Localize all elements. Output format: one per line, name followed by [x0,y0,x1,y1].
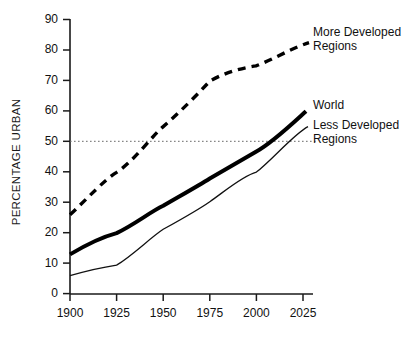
series-label-less-developed-regions: Less Developed Regions [313,119,399,146]
x-tick-label-1950: 1950 [140,307,186,319]
y-tick-label-50: 50 [32,135,58,147]
series-label-more-developed-regions: More Developed Regions [313,26,401,53]
x-tick-label-2000: 2000 [233,307,279,319]
x-axis-ticks [70,294,303,301]
y-tick-label-60: 60 [32,104,58,116]
y-tick-label-20: 20 [32,226,58,238]
series-label-less-developed-line1: Less Developed [313,119,399,133]
series-line-less-developed-regions [70,127,308,276]
y-tick-label-70: 70 [32,74,58,86]
y-tick-label-30: 30 [32,196,58,208]
x-tick-label-1900: 1900 [47,307,93,319]
series-label-world: World [313,99,344,113]
y-tick-label-10: 10 [32,257,58,269]
y-tick-label-0: 0 [32,287,58,299]
y-tick-label-90: 90 [32,13,58,25]
y-axis-title: PERCENTAGE URBAN [10,62,22,262]
series-label-world-line1: World [313,99,344,113]
urbanization-line-chart: PERCENTAGE URBAN 90 80 70 60 50 40 30 20… [0,0,418,337]
series-label-more-developed-line1: More Developed [313,26,401,40]
x-tick-label-1975: 1975 [187,307,233,319]
x-tick-label-1925: 1925 [94,307,140,319]
y-axis-ticks [63,20,70,294]
y-tick-label-40: 40 [32,165,58,177]
series-label-less-developed-line2: Regions [313,133,399,147]
x-tick-label-2025: 2025 [280,307,326,319]
y-tick-label-80: 80 [32,43,58,55]
series-label-more-developed-line2: Regions [313,40,401,54]
